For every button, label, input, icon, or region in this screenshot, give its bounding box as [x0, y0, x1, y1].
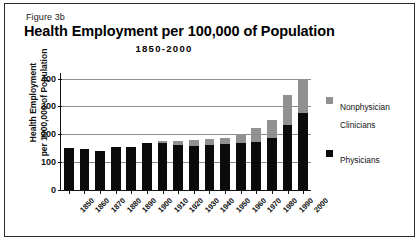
bar-segment-physicians — [251, 142, 261, 190]
bar-column — [142, 143, 152, 190]
x-axis-tick-label: 1920 — [187, 196, 205, 214]
bar-segment-physicians — [267, 138, 277, 190]
bar-segment-physicians — [173, 145, 183, 190]
bar-segment-physicians — [298, 113, 308, 190]
x-axis-tick-label: 1900 — [156, 196, 174, 214]
bar-segment-nonphysician — [236, 134, 246, 143]
x-axis-tick-mark — [69, 190, 70, 194]
bar-column — [173, 141, 183, 190]
bar-segment-nonphysician — [298, 80, 308, 113]
bar-column — [251, 128, 261, 190]
y-axis-tick-mark — [58, 190, 62, 191]
bar-segment-physicians — [236, 143, 246, 190]
bar-column — [189, 140, 199, 190]
x-axis-tick-mark — [303, 190, 304, 194]
figure-title: Health Employment per 100,000 of Populat… — [24, 23, 335, 39]
x-axis-tick-mark — [100, 190, 101, 194]
legend-item-nonphysician-clinicians: Nonphysician Clinicians — [326, 96, 414, 132]
legend-label-nonphysician: Nonphysician Clinicians — [340, 102, 390, 130]
y-axis-tick-label: 300 — [41, 101, 56, 111]
bar-segment-physicians — [283, 125, 293, 190]
legend-label-physicians: Physicians — [340, 155, 380, 165]
x-axis-tick-label: 1910 — [172, 196, 190, 214]
x-axis-tick-mark — [116, 190, 117, 194]
x-axis-tick-mark — [209, 190, 210, 194]
y-axis-tick-label: 200 — [41, 129, 56, 139]
bar-column — [220, 138, 230, 190]
bar-segment-nonphysician — [251, 128, 261, 142]
x-axis-tick-label: 1850 — [78, 196, 96, 214]
x-axis-tick-label: 1930 — [203, 196, 221, 214]
bar-segment-physicians — [220, 144, 230, 190]
bar-column — [95, 151, 105, 190]
x-axis-tick-label: 1890 — [140, 196, 158, 214]
x-axis-tick-label: 1970 — [265, 196, 283, 214]
figure-number: Figure 3b — [26, 12, 65, 22]
chart-plot-wrapper: Health Employment per 1000,000 of Popula… — [18, 64, 318, 234]
bar-segment-physicians — [126, 147, 136, 190]
x-axis-tick-label: 1870 — [109, 196, 127, 214]
bar-column — [80, 149, 90, 190]
x-axis-tick-mark — [288, 190, 289, 194]
y-axis-tick-label: 100 — [41, 157, 56, 167]
x-axis-tick-mark — [256, 190, 257, 194]
legend-item-physicians: Physicians — [326, 149, 414, 167]
x-axis-tick-mark — [241, 190, 242, 194]
bar-column — [283, 95, 293, 190]
x-axis-tick-mark — [194, 190, 195, 194]
bar-segment-physicians — [142, 143, 152, 190]
plot-area: 0100200300400 18501860187018801890190019… — [60, 73, 311, 191]
x-axis-tick-label: 1880 — [125, 196, 143, 214]
bar-column — [205, 139, 215, 190]
bar-segment-physicians — [95, 151, 105, 190]
figure-container: Figure 3b Health Employment per 100,000 … — [0, 0, 419, 241]
bar-column — [298, 80, 308, 190]
y-axis-tick-label: 400 — [41, 74, 56, 84]
x-axis-tick-label: 1950 — [234, 196, 252, 214]
legend-swatch-icon-nonphysician — [326, 97, 333, 104]
bar-column — [236, 134, 246, 190]
figure-subtitle: 1850-2000 — [24, 43, 304, 54]
bar-segment-nonphysician — [267, 120, 277, 139]
bar-column — [64, 148, 74, 190]
bar-segment-nonphysician — [283, 95, 293, 125]
bars-group — [61, 73, 311, 190]
bar-segment-physicians — [158, 143, 168, 190]
x-axis-tick-label: 1990 — [297, 196, 315, 214]
x-axis-tick-mark — [225, 190, 226, 194]
bar-segment-physicians — [80, 149, 90, 190]
x-axis-tick-mark — [84, 190, 85, 194]
x-axis-tick-label: 1940 — [218, 196, 236, 214]
bar-segment-physicians — [205, 145, 215, 190]
x-axis-tick-label: 1960 — [250, 196, 268, 214]
y-axis-tick-label: 0 — [51, 185, 56, 195]
bar-column — [158, 141, 168, 190]
x-axis-tick-label: 1860 — [93, 196, 111, 214]
chart-legend: Nonphysician Clinicians Physicians — [326, 96, 414, 184]
x-axis-tick-mark — [272, 190, 273, 194]
bar-column — [126, 147, 136, 190]
x-axis-tick-mark — [147, 190, 148, 194]
x-axis-tick-mark — [163, 190, 164, 194]
bar-column — [111, 147, 121, 190]
x-axis-tick-label: 1980 — [281, 196, 299, 214]
x-axis-tick-mark — [178, 190, 179, 194]
bar-column — [267, 120, 277, 190]
bar-segment-physicians — [189, 146, 199, 190]
bar-segment-physicians — [111, 147, 121, 190]
y-axis-title-line1: Health Employment — [28, 63, 38, 142]
bar-segment-physicians — [64, 148, 74, 190]
legend-swatch-icon-physicians — [326, 150, 333, 157]
x-axis-tick-mark — [131, 190, 132, 194]
